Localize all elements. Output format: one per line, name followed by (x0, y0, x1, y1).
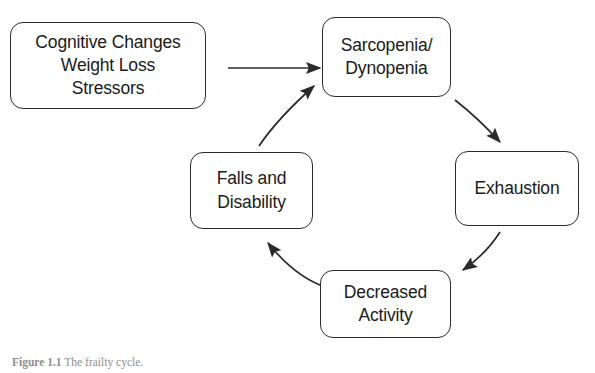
arrow-exhaustion-to-decreased (463, 232, 500, 270)
arrow-sarcopenia-to-exhaustion (455, 100, 500, 142)
figure-canvas: Cognitive Changes Weight Loss Stressors … (0, 0, 595, 373)
arrow-falls-to-sarcopenia (259, 86, 314, 146)
node-falls-line-1: Falls and (217, 167, 287, 190)
arrow-decreased-to-falls (268, 243, 328, 288)
node-cognitive-line-3: Stressors (72, 77, 145, 100)
node-decreased-line-2: Activity (358, 304, 412, 327)
node-cognitive-line-2: Weight Loss (61, 54, 155, 77)
node-sarcopenia-dynopenia: Sarcopenia/ Dynopenia (322, 17, 451, 97)
node-cognitive-changes: Cognitive Changes Weight Loss Stressors (10, 22, 206, 109)
figure-caption: Figure 1.1 The frailty cycle. (12, 356, 572, 373)
figure-caption-text: The frailty cycle. (64, 356, 143, 368)
node-exhaustion: Exhaustion (455, 151, 579, 226)
node-cognitive-line-1: Cognitive Changes (35, 31, 180, 54)
node-sarcopenia-line-1: Sarcopenia/ (341, 34, 433, 57)
figure-caption-label: Figure 1.1 (12, 356, 62, 368)
node-falls-line-2: Disability (217, 191, 286, 214)
node-exhaustion-line-1: Exhaustion (474, 177, 559, 200)
node-sarcopenia-line-2: Dynopenia (345, 57, 427, 80)
node-falls-and-disability: Falls and Disability (190, 152, 313, 229)
node-decreased-activity: Decreased Activity (320, 270, 451, 338)
node-decreased-line-1: Decreased (344, 281, 427, 304)
